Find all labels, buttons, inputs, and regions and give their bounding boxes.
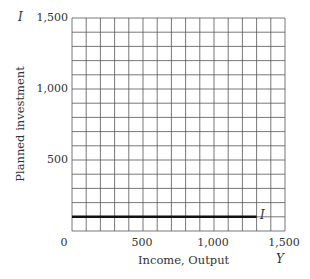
y-axis-label: Planned investment <box>13 44 27 204</box>
y-tick-1000: 1,000 <box>28 82 68 95</box>
y-axis-symbol: I <box>18 10 23 24</box>
investment-line-label: I <box>260 208 265 222</box>
x-axis-label: Income, Output <box>138 253 229 267</box>
origin-label: 0 <box>44 236 84 249</box>
y-tick-1500: 1,500 <box>28 11 68 24</box>
x-tick-500: 500 <box>122 236 162 249</box>
y-tick-500: 500 <box>28 153 68 166</box>
x-tick-1000: 1,000 <box>193 236 233 249</box>
x-axis-symbol: Y <box>276 252 284 266</box>
x-tick-1500: 1,500 <box>264 236 304 249</box>
